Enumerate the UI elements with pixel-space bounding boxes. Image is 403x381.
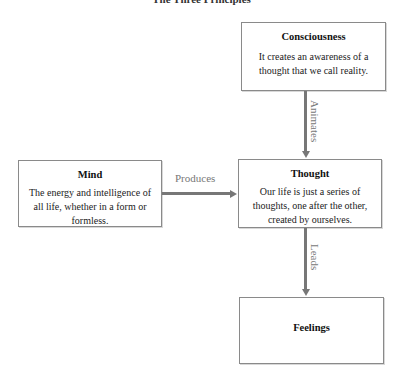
node-thought-heading: Thought <box>239 168 381 179</box>
node-consciousness-heading: Consciousness <box>242 31 385 42</box>
node-thought-text: Our life is just a series of thoughts, o… <box>239 185 381 227</box>
edge-produces-line <box>162 192 231 195</box>
node-mind-heading: Mind <box>19 169 161 180</box>
arrow-right-icon <box>230 190 237 198</box>
arrow-down-icon <box>302 151 310 158</box>
node-consciousness: Consciousness It creates an awareness of… <box>241 22 386 91</box>
node-feelings-heading: Feelings <box>293 322 330 333</box>
arrow-down-icon <box>302 289 310 296</box>
edge-leads-label: Leads <box>309 244 321 270</box>
node-mind-text: The energy and intelligence of all life,… <box>19 186 161 228</box>
diagram-title: The Three Principles <box>0 0 403 5</box>
edge-animates-label: Animates <box>309 100 321 142</box>
node-consciousness-text: It creates an awareness of a thought tha… <box>242 50 385 78</box>
edge-produces-label: Produces <box>175 172 215 184</box>
node-feelings: Feelings <box>239 297 384 364</box>
node-thought: Thought Our life is just a series of tho… <box>238 159 382 228</box>
edge-leads-line <box>304 228 307 290</box>
node-mind: Mind The energy and intelligence of all … <box>18 160 162 227</box>
edge-animates-line <box>304 91 307 152</box>
